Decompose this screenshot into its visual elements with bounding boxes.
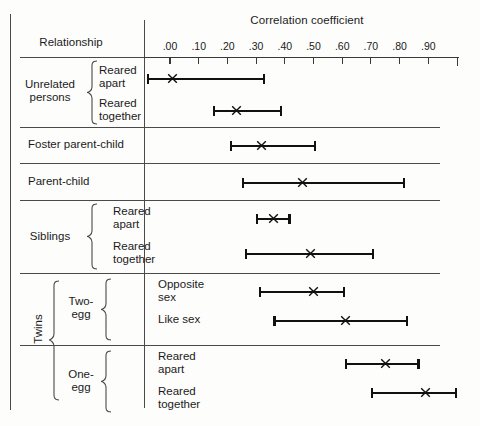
- row-rule-1: [20, 127, 440, 128]
- row-label-line2: sex: [158, 291, 176, 303]
- row-label-line2: together: [113, 253, 155, 265]
- row-rule-3: [20, 200, 440, 201]
- interval-cap-low: [147, 74, 149, 84]
- x-axis-tick-label: .10: [184, 40, 214, 52]
- x-axis-tick: [284, 57, 285, 64]
- row-label-line1: Reared: [99, 64, 137, 76]
- row-label-line2: apart: [113, 218, 139, 230]
- group-label-twins: Twins: [32, 303, 44, 355]
- row-label: Parent-child: [28, 175, 89, 188]
- row-label: Rearedtogether: [113, 240, 155, 266]
- row-label-line1: Reared: [113, 240, 151, 252]
- median-x-marker: [340, 315, 351, 326]
- x-axis-tick-label: .80: [385, 40, 415, 52]
- median-x-marker: [167, 73, 178, 84]
- row-label: Rearedapart: [99, 64, 137, 90]
- brace-twins: [48, 280, 60, 402]
- x-axis-tick: [428, 57, 429, 64]
- x-axis-tick: [342, 57, 343, 64]
- row-label-line1: Reared: [158, 350, 196, 362]
- interval-range-line: [147, 78, 265, 80]
- row-label-line2: apart: [158, 363, 184, 375]
- group-label-one-egg: One- egg: [62, 368, 100, 394]
- row-label: Like sex: [158, 313, 200, 326]
- interval-cap-high: [417, 359, 419, 369]
- row-label-line2: together: [99, 110, 141, 122]
- row-label-line2: together: [158, 398, 200, 410]
- brace-unrelated-persons: [86, 60, 98, 125]
- row-label-line1: Reared: [158, 385, 196, 397]
- interval-range-line: [371, 392, 457, 394]
- x-axis-tick: [227, 57, 228, 64]
- row-rule-5: [20, 345, 440, 346]
- row-label-line1: Like sex: [158, 313, 200, 325]
- group-label-unrelated-persons: Unrelated persons: [14, 78, 86, 104]
- x-axis-tick-label: .50: [299, 40, 329, 52]
- row-label: Rearedapart: [158, 350, 196, 376]
- interval-cap-low: [256, 214, 258, 224]
- interval-cap-low: [245, 249, 247, 259]
- interval-cap-low: [345, 359, 347, 369]
- frame-left-border: [10, 14, 11, 410]
- row-label-line1: Reared: [99, 97, 137, 109]
- relationship-column-header: Relationship: [0, 36, 142, 48]
- row-label: Rearedtogether: [99, 97, 141, 123]
- median-x-marker: [256, 140, 267, 151]
- interval-cap-high: [263, 74, 265, 84]
- interval-cap-high: [372, 249, 374, 259]
- x-axis-tick-label: .90: [413, 40, 443, 52]
- interval-range-line: [230, 145, 316, 147]
- row-label: Rearedtogether: [158, 385, 200, 411]
- interval-cap-high: [288, 214, 290, 224]
- interval-cap-low: [273, 316, 275, 326]
- group-label-two-egg: Two- egg: [62, 295, 100, 321]
- interval-cap-high: [343, 287, 345, 297]
- median-x-marker: [305, 248, 316, 259]
- correlation-chart: Correlation coefficient Relationship .00…: [0, 0, 480, 426]
- row-rule-4: [20, 273, 440, 274]
- row-label-line1: Parent-child: [28, 175, 89, 187]
- row-label: Foster parent-child: [28, 138, 124, 151]
- interval-cap-high: [455, 388, 457, 398]
- median-x-marker: [308, 286, 319, 297]
- interval-cap-low: [213, 106, 215, 116]
- row-label: Rearedapart: [113, 205, 151, 231]
- interval-cap-low: [242, 178, 244, 188]
- interval-cap-high: [314, 141, 316, 151]
- row-rule-2: [20, 163, 440, 164]
- row-label: Oppositesex: [158, 278, 204, 304]
- interval-cap-high: [403, 178, 405, 188]
- median-x-marker: [231, 105, 242, 116]
- x-axis-tick: [313, 57, 314, 64]
- x-axis-tick: [399, 57, 400, 64]
- row-label-line1: Opposite: [158, 278, 204, 290]
- x-axis-end-tick: [457, 57, 458, 66]
- group-label-siblings: Siblings: [14, 230, 86, 243]
- row-label-line1: Reared: [113, 205, 151, 217]
- interval-cap-low: [371, 388, 373, 398]
- interval-cap-high: [280, 106, 282, 116]
- x-axis-line: [144, 57, 459, 58]
- x-axis-tick-label: .70: [356, 40, 386, 52]
- chart-axis-title: Correlation coefficient: [152, 14, 462, 26]
- x-axis-tick: [256, 57, 257, 64]
- x-axis-tick-label: .30: [241, 40, 271, 52]
- median-x-marker: [420, 387, 431, 398]
- interval-cap-low: [230, 141, 232, 151]
- brace-siblings: [86, 203, 98, 270]
- interval-range-line: [242, 182, 406, 184]
- x-axis-tick: [198, 57, 199, 64]
- row-label-line2: apart: [99, 77, 125, 89]
- median-x-marker: [380, 358, 391, 369]
- brace-one-egg: [100, 350, 112, 414]
- x-axis-tick: [169, 57, 170, 64]
- row-label-line1: Foster parent-child: [28, 138, 124, 150]
- x-axis-tick: [370, 57, 371, 64]
- interval-cap-low: [259, 287, 261, 297]
- interval-range-line: [213, 110, 282, 112]
- interval-cap-high: [406, 316, 408, 326]
- x-axis-tick-label: .40: [270, 40, 300, 52]
- x-axis-tick-label: .00: [155, 40, 185, 52]
- median-x-marker: [297, 177, 308, 188]
- interval-range-line: [259, 291, 345, 293]
